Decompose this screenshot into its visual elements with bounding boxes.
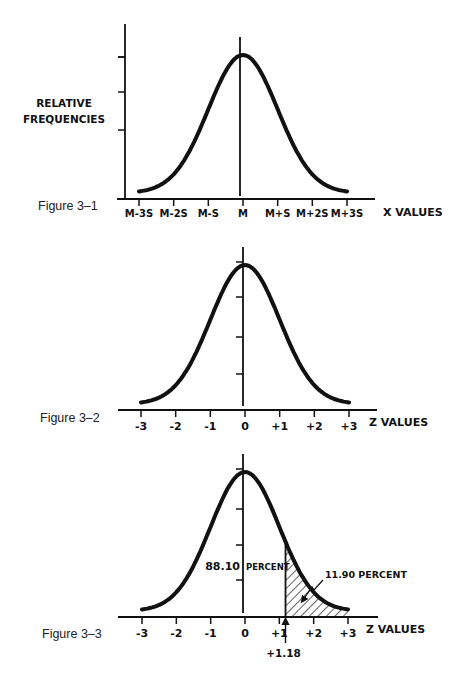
fig3-normal-curve bbox=[142, 472, 348, 610]
fig1-ylabel-line1: RELATIVE bbox=[36, 97, 92, 109]
figure-3-2: -3-2-10+1+2+3 Z VALUES Figure 3–2 bbox=[40, 247, 428, 433]
x-tick-label: M+3S bbox=[331, 208, 364, 219]
x-tick-label: -1 bbox=[205, 627, 217, 640]
fig2-xlabel: Z VALUES bbox=[369, 416, 428, 429]
fig2-x-ticks: -3-2-10+1+2+3 bbox=[135, 410, 358, 433]
x-tick-label: +3 bbox=[341, 420, 358, 433]
fig1-normal-curve bbox=[139, 55, 347, 192]
fig3-cutoff-label: +1.18 bbox=[266, 647, 301, 659]
figure-3-1: M-3SM-2SM-SMM+SM+2SM+3S RELATIVE FREQUEN… bbox=[23, 24, 443, 219]
x-tick-label: +1 bbox=[271, 420, 288, 433]
fig3-xlabel: Z VALUES bbox=[366, 623, 425, 636]
x-tick-label: -2 bbox=[170, 420, 182, 433]
fig2-normal-curve bbox=[141, 265, 349, 403]
x-tick-label: M bbox=[238, 208, 248, 219]
fig3-tail-percent-label: 11.90 PERCENT bbox=[325, 569, 408, 580]
x-tick-label: -2 bbox=[170, 627, 182, 640]
figure-3-3: -3-2-10+1+2+3 +1.18 88.10 PERCENT 11.90 … bbox=[42, 454, 425, 659]
fig2-caption: Figure 3–2 bbox=[40, 411, 100, 425]
fig1-y-ticks bbox=[118, 57, 125, 130]
x-tick-label: +2 bbox=[306, 420, 323, 433]
x-tick-label: -3 bbox=[136, 627, 148, 640]
x-tick-label: M+S bbox=[265, 208, 291, 219]
x-tick-label: 0 bbox=[241, 627, 249, 640]
x-tick-label: 0 bbox=[241, 420, 249, 433]
fig1-x-ticks: M-3SM-2SM-SMM+SM+2SM+3S bbox=[125, 199, 363, 219]
x-tick-label: M+2S bbox=[296, 208, 329, 219]
fig1-ylabel-line2: FREQUENCIES bbox=[23, 113, 105, 125]
fig1-xlabel: X VALUES bbox=[383, 206, 443, 219]
fig1-caption: Figure 3–1 bbox=[38, 199, 98, 213]
x-tick-label: M-S bbox=[198, 208, 219, 219]
fig3-left-percent-unit: PERCENT bbox=[246, 562, 290, 572]
figures-canvas: M-3SM-2SM-SMM+SM+2SM+3S RELATIVE FREQUEN… bbox=[0, 0, 462, 682]
x-tick-label: M-2S bbox=[160, 208, 188, 219]
x-tick-label: +3 bbox=[340, 627, 357, 640]
fig3-left-percent-value: 88.10 bbox=[205, 560, 240, 573]
x-tick-label: -3 bbox=[135, 420, 147, 433]
fig3-caption: Figure 3–3 bbox=[42, 627, 102, 641]
x-tick-label: M-3S bbox=[125, 208, 153, 219]
x-tick-label: -1 bbox=[204, 420, 216, 433]
fig2-y-ticks bbox=[236, 262, 243, 374]
fig3-x-ticks: -3-2-10+1+2+3 bbox=[136, 617, 357, 640]
x-tick-label: +2 bbox=[305, 627, 322, 640]
